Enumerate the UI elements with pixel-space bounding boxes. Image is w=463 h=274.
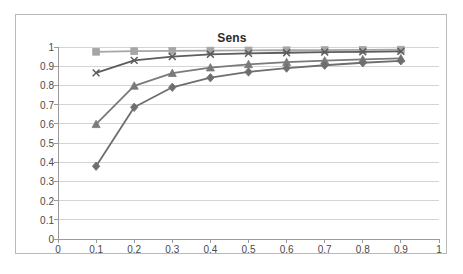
x-tick-label: 0.8 xyxy=(356,244,370,255)
y-tick-label: 0.1 xyxy=(40,214,54,225)
x-tick-label: 0.5 xyxy=(242,244,256,255)
plot-svg xyxy=(58,47,439,239)
x-tick-label: 0.6 xyxy=(280,244,294,255)
x-tick-label: 0.2 xyxy=(127,244,141,255)
y-tick-label: 0.9 xyxy=(40,61,54,72)
y-tick-label: 0 xyxy=(48,234,54,245)
y-tick-label: 0.6 xyxy=(40,118,54,129)
y-tick-label: 0.3 xyxy=(40,176,54,187)
x-tick-label: 1 xyxy=(436,244,442,255)
data-point-diamond xyxy=(207,74,214,82)
y-axis-tick-labels: 00.10.20.30.40.50.60.70.80.91 xyxy=(16,47,54,239)
x-tick-label: 0.9 xyxy=(394,244,408,255)
x-tick-label: 0.7 xyxy=(318,244,332,255)
y-tick-label: 0.2 xyxy=(40,195,54,206)
data-point-square xyxy=(93,48,100,55)
y-tick-label: 0.5 xyxy=(40,138,54,149)
x-axis-tick-labels: 00.10.20.30.40.50.60.70.80.91 xyxy=(58,244,439,260)
chart-title: Sens xyxy=(16,31,448,45)
y-tick-label: 0.7 xyxy=(40,99,54,110)
series-series-4-diamond xyxy=(92,57,404,171)
plot-area xyxy=(58,47,439,239)
y-tick-label: 0.8 xyxy=(40,80,54,91)
data-point-diamond xyxy=(169,83,176,91)
series-series-3-triangle xyxy=(92,54,405,127)
chart-border: Sens 00.10.20.30.40.50.60.70.80.91 00.10… xyxy=(15,14,447,254)
x-tick-label: 0 xyxy=(55,244,61,255)
y-tick-label: 0.4 xyxy=(40,157,54,168)
x-tick-label: 0.3 xyxy=(165,244,179,255)
data-point-square xyxy=(207,47,214,54)
x-tick-label: 0.4 xyxy=(203,244,217,255)
x-tick-label: 0.1 xyxy=(89,244,103,255)
chart-figure: Sens 00.10.20.30.40.50.60.70.80.91 00.10… xyxy=(0,0,463,274)
y-tick-label: 1 xyxy=(48,42,54,53)
data-point-diamond xyxy=(245,68,252,76)
data-point-square xyxy=(131,48,138,55)
